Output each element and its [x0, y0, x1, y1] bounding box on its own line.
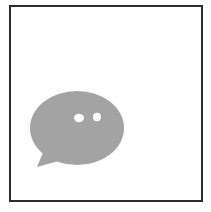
speech-bubble: [30, 91, 124, 167]
typing-dot-2: [93, 113, 101, 121]
chat-bubble-icon: [0, 0, 211, 212]
typing-dot-1: [74, 114, 84, 122]
